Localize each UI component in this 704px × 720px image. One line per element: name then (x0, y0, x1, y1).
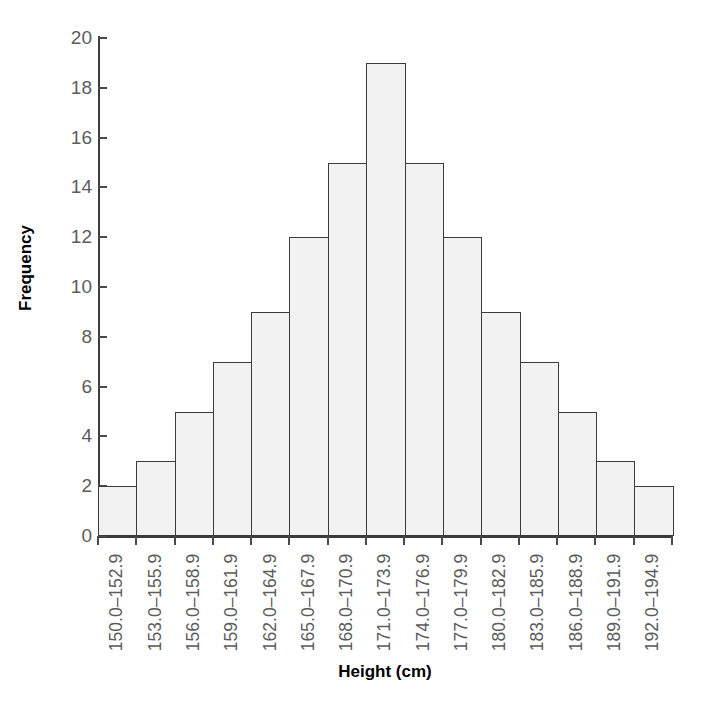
x-axis-tick-label-text: 186.0–188.9 (566, 554, 587, 651)
histogram-bar (136, 461, 176, 536)
x-axis-tick-label: 186.0–188.9 (557, 548, 595, 656)
histogram-bar (289, 237, 329, 536)
histogram-bar (557, 412, 597, 537)
y-axis-tick-label-text: 0 (56, 526, 92, 545)
y-axis-tick-label: 2 (50, 476, 92, 496)
histogram-bar (366, 63, 406, 536)
y-axis-tick-label-text: 12 (56, 227, 92, 246)
histogram-bar (519, 362, 559, 536)
x-axis-title: Height (cm) (98, 662, 672, 682)
x-axis-tick-label: 162.0–164.9 (251, 548, 289, 656)
y-axis-tick-label-text: 18 (56, 78, 92, 97)
x-axis-tick-label-text: 153.0–155.9 (145, 554, 166, 651)
x-axis-tick-label-text: 162.0–164.9 (260, 554, 281, 651)
y-axis-tick-label: 8 (50, 327, 92, 347)
x-axis-tick (288, 536, 290, 545)
x-axis-tick (250, 536, 252, 545)
x-axis-tick (480, 536, 482, 545)
y-axis-tick-label: 18 (50, 78, 92, 98)
x-axis-tick-label: 192.0–194.9 (634, 548, 672, 656)
histogram-bar (634, 486, 674, 536)
y-axis-tick-label: 4 (50, 426, 92, 446)
x-axis-tick-label-text: 156.0–158.9 (183, 554, 204, 651)
x-axis-tick-label-text: 168.0–170.9 (336, 554, 357, 651)
x-axis-tick (594, 536, 596, 545)
y-axis-tick-label-text: 6 (56, 377, 92, 396)
x-axis-tick-label: 180.0–182.9 (481, 548, 519, 656)
histogram-bar (481, 312, 521, 536)
x-axis-tick-label-text: 177.0–179.9 (451, 554, 472, 651)
y-axis-tick-label: 20 (50, 28, 92, 48)
histogram-bar (175, 412, 215, 537)
x-axis-tick-label-text: 150.0–152.9 (107, 554, 128, 651)
histogram-bar (595, 461, 635, 536)
x-axis-tick-label-text: 183.0–185.9 (528, 554, 549, 651)
histogram-bar (328, 163, 368, 537)
y-axis-tick-label-text: 10 (56, 277, 92, 296)
x-axis-line (97, 536, 673, 538)
x-axis-tick-label-text: 192.0–194.9 (642, 554, 663, 651)
x-axis-tick (365, 536, 367, 545)
y-axis-tick-label-text: 14 (56, 177, 92, 196)
x-axis-tick (403, 536, 405, 545)
histogram-bar (404, 163, 444, 537)
y-axis-tick-label-text: 20 (56, 28, 92, 47)
x-axis-tick-label: 153.0–155.9 (136, 548, 174, 656)
x-axis-tick (327, 536, 329, 545)
x-axis-tick (441, 536, 443, 545)
y-axis-tick-label: 16 (50, 128, 92, 148)
y-axis-tick-label: 10 (50, 277, 92, 297)
histogram-bar (442, 237, 482, 536)
x-axis-tick-label: 183.0–185.9 (519, 548, 557, 656)
y-axis-tick-label-text: 16 (56, 128, 92, 147)
y-axis-tick-label: 6 (50, 377, 92, 397)
x-axis-tick (556, 536, 558, 545)
bottom-edge-artifact (8, 706, 248, 720)
x-axis-tick-label-text: 159.0–161.9 (221, 554, 242, 651)
x-axis-tick-label-text: 189.0–191.9 (604, 554, 625, 651)
y-axis-tick-label: 12 (50, 227, 92, 247)
x-axis-tick (135, 536, 137, 545)
x-axis-tick (518, 536, 520, 545)
x-axis-tick-label: 177.0–179.9 (443, 548, 481, 656)
x-axis-tick (174, 536, 176, 545)
x-axis-tick-label-text: 180.0–182.9 (489, 554, 510, 651)
y-axis-title-text: Frequency (16, 225, 36, 311)
y-axis-tick-label: 14 (50, 177, 92, 197)
x-axis-tick (212, 536, 214, 545)
plot-area (98, 38, 672, 536)
x-axis-tick-label-text: 171.0–173.9 (375, 554, 396, 651)
x-axis-tick-label: 174.0–176.9 (404, 548, 442, 656)
x-axis-tick-label-text: 165.0–167.9 (298, 554, 319, 651)
x-axis-tick-label-text: 174.0–176.9 (413, 554, 434, 651)
y-axis-tick-label-text: 8 (56, 327, 92, 346)
x-axis-tick-label: 156.0–158.9 (175, 548, 213, 656)
histogram-bar (251, 312, 291, 536)
x-axis-tick-label: 159.0–161.9 (213, 548, 251, 656)
x-axis-tick (97, 536, 99, 545)
x-axis-tick-label: 150.0–152.9 (98, 548, 136, 656)
x-axis-tick-label: 189.0–191.9 (596, 548, 634, 656)
y-axis-tick-label-text: 2 (56, 476, 92, 495)
histogram-bar (213, 362, 253, 536)
x-axis-tick-label: 168.0–170.9 (328, 548, 366, 656)
histogram-bar (98, 486, 138, 536)
y-axis-tick-label: 0 (50, 526, 92, 546)
x-axis-tick-label: 171.0–173.9 (366, 548, 404, 656)
x-axis-tick (633, 536, 635, 545)
y-axis-title: Frequency (0, 0, 52, 536)
x-axis-tick-label: 165.0–167.9 (289, 548, 327, 656)
y-axis-tick-label-text: 4 (56, 426, 92, 445)
histogram-figure: Frequency 02468101214161820 150.0–152.91… (0, 0, 704, 720)
x-axis-tick (671, 536, 673, 545)
